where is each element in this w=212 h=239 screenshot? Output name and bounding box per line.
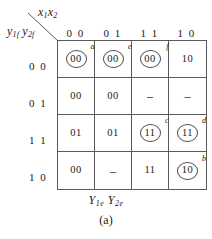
cell-value: 00 <box>144 54 156 65</box>
cell-value: – <box>185 90 191 102</box>
cell-tag: c <box>165 117 169 125</box>
stable-state-marker: 10 b <box>177 162 198 180</box>
top-axis-var2-sub: 2 <box>53 11 57 20</box>
cell-tag: d <box>202 117 206 125</box>
cell-tag: b <box>202 155 206 163</box>
bottom-axis-label: Y1e Y2e <box>0 193 212 208</box>
table-cell-r0c0[interactable]: 00 a <box>58 41 95 78</box>
cell-value: – <box>110 165 116 177</box>
cell-value: 00 <box>70 54 82 65</box>
row-header-0: 0 0 <box>24 58 52 74</box>
left-axis-label: y1f y2f <box>7 24 35 39</box>
cell-value: 11 <box>182 128 193 139</box>
bottom-axis-var1: Y <box>89 193 96 207</box>
bottom-axis-var2-sub: 2e <box>115 199 124 208</box>
table-cell-r0c3[interactable]: 10 <box>169 41 206 78</box>
column-header-2: 1 1 <box>131 27 168 40</box>
row-header-3: 1 0 <box>24 169 52 185</box>
table-cell-r1c0[interactable]: 00 <box>58 78 95 115</box>
cell-value: 00 <box>70 165 82 176</box>
left-axis-var1-sub: 1f <box>13 30 20 39</box>
state-table-grid: 00 a 00 e 00 f 10 00 00 – <box>57 40 207 190</box>
cell-value: 00 <box>107 54 119 65</box>
bottom-axis-var1-sub: 1e <box>96 199 105 208</box>
table-cell-r3c3[interactable]: 10 b <box>169 152 206 189</box>
left-axis-var2-sub: 2f <box>28 30 35 39</box>
column-header-3: 1 0 <box>168 27 205 40</box>
table-cell-r1c2[interactable]: – <box>132 78 169 115</box>
table-cell-r1c3[interactable]: – <box>169 78 206 115</box>
figure-caption: (a) <box>0 213 212 228</box>
cell-tag: a <box>91 43 95 51</box>
cell-value: 11 <box>144 128 155 139</box>
row-header-1: 0 1 <box>24 95 52 111</box>
bottom-axis-var2: Y <box>108 193 115 207</box>
cell-value: – <box>147 90 153 102</box>
table-cell-r2c0[interactable]: 01 <box>58 115 95 152</box>
table-cell-r1c1[interactable]: 00 <box>95 78 132 115</box>
column-header-0: 0 0 <box>57 27 94 40</box>
cell-value: 00 <box>107 91 119 102</box>
table-cell-r3c0[interactable]: 00 <box>58 152 95 189</box>
row-header-2: 1 1 <box>24 132 52 148</box>
top-axis-label: x1x2 <box>38 5 57 20</box>
stable-state-marker: 00 a <box>66 50 87 68</box>
cell-value: 10 <box>182 165 194 176</box>
cell-value: 01 <box>70 128 82 139</box>
table-cell-r3c1[interactable]: – <box>95 152 132 189</box>
cell-tag: e <box>128 43 132 51</box>
stable-state-marker: 11 d <box>177 124 198 142</box>
cell-value: 10 <box>182 54 194 65</box>
axis-corner: x1x2 y1f y2f <box>0 0 62 44</box>
table-cell-r0c1[interactable]: 00 e <box>95 41 132 78</box>
table-cell-r3c2[interactable]: 11 <box>132 152 169 189</box>
table-cell-r0c2[interactable]: 00 f <box>132 41 169 78</box>
cell-value: 01 <box>107 128 119 139</box>
column-header-1: 0 1 <box>94 27 131 40</box>
stable-state-marker: 00 f <box>140 50 161 68</box>
table-cell-r2c3[interactable]: 11 d <box>169 115 206 152</box>
cell-value: 00 <box>70 91 82 102</box>
karnaugh-flow-table-figure: x1x2 y1f y2f 0 0 0 1 1 1 1 0 0 0 0 1 1 1… <box>0 0 212 239</box>
table-cell-r2c2[interactable]: 11 c <box>132 115 169 152</box>
stable-state-marker: 00 e <box>103 50 124 68</box>
table-cell-r2c1[interactable]: 01 <box>95 115 132 152</box>
cell-value: 11 <box>144 165 155 176</box>
stable-state-marker: 11 c <box>140 124 161 142</box>
